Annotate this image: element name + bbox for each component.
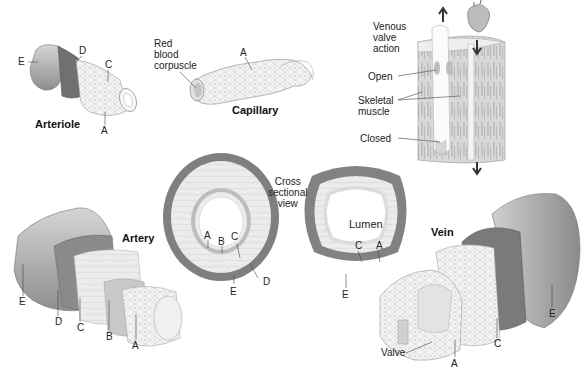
arteriole-label-a: A (101, 125, 108, 136)
title-capillary: Capillary (232, 104, 278, 116)
arteriole-label-d: D (79, 45, 86, 56)
venous-valve-label-open: Open (368, 71, 392, 82)
venous-valve-label-skeletal-muscle: Skeletal muscle (358, 95, 394, 117)
vein-label-c: C (494, 338, 501, 349)
venous-valve-label-closed: Closed (360, 133, 391, 144)
cross-artery-label-a: A (204, 230, 211, 241)
arteriole-label-e: E (18, 56, 25, 67)
artery-label-b: B (106, 331, 113, 342)
capillary-label-red-blood-corpuscle: Red blood corpuscle (154, 38, 197, 71)
venous-valve-illustration (418, 0, 505, 174)
cross-artery-label-b: B (218, 236, 225, 247)
cross-vein-label-e: E (342, 289, 349, 300)
artery-label-a: A (132, 340, 139, 351)
capillary-label-a: A (240, 47, 247, 58)
cross-artery-label-e: E (230, 286, 237, 297)
artery-label-d: D (55, 316, 62, 327)
artery-label-e: E (19, 296, 26, 307)
title-artery: Artery (122, 232, 154, 244)
artery-label-c: C (77, 322, 84, 333)
vein-label-valve: Valve (381, 347, 405, 358)
artery-illustration (14, 208, 182, 346)
capillary-illustration (190, 59, 313, 104)
cross-vein-label-c: C (355, 240, 362, 251)
title-arteriole: Arteriole (35, 118, 80, 130)
venous-valve-title: Venous valve action (373, 21, 406, 54)
blood-vessel-diagram: Arteriole Capillary Artery Vein E D C A … (0, 0, 585, 373)
cross-artery-label-c: C (231, 231, 238, 242)
arteriole-label-c: C (105, 59, 112, 70)
cross-artery-label-d: D (263, 276, 270, 287)
title-vein: Vein (431, 226, 454, 238)
vein-label-e: E (549, 308, 556, 319)
cross-vein-label-a: A (376, 240, 383, 251)
cross-section-title: Cross sectional view (268, 176, 307, 209)
cross-vein-label-lumen: Lumen (349, 219, 383, 230)
artery-cross-section (163, 153, 279, 281)
vein-illustration (380, 193, 580, 360)
vein-label-a: A (451, 358, 458, 369)
